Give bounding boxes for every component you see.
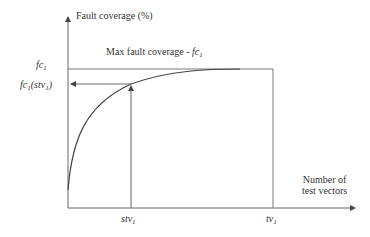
y-tick-fc1: fc1 <box>36 60 47 72</box>
x-tick-stv1: stv1 <box>121 214 136 226</box>
max-coverage-text: Max fault coverage - <box>106 46 192 57</box>
coverage-curve <box>68 69 240 190</box>
x-tick-stv1-sub: 1 <box>132 218 136 226</box>
max-coverage-sub: 1 <box>199 51 203 59</box>
x-tick-tv1: tv1 <box>266 214 277 226</box>
y-tick-stv-close: ) <box>49 79 52 90</box>
fault-coverage-diagram <box>0 0 370 237</box>
x-tick-stv1-symbol: stv <box>121 213 132 224</box>
y-tick-stv-open: (stv <box>31 79 45 90</box>
x-axis-label-line2: test vectors <box>302 186 347 196</box>
max-coverage-label: Max fault coverage - fc1 <box>106 47 203 59</box>
x-tick-tv1-sub: 1 <box>273 218 277 226</box>
x-axis-label-line1: Number of <box>302 175 347 185</box>
y-axis-label: Fault coverage (%) <box>76 11 153 21</box>
y-tick-fc1-stv1: fc1(stv1) <box>20 80 52 92</box>
y-tick-fc1-sub: 1 <box>43 64 47 72</box>
x-axis-label: Number of test vectors <box>302 175 347 196</box>
